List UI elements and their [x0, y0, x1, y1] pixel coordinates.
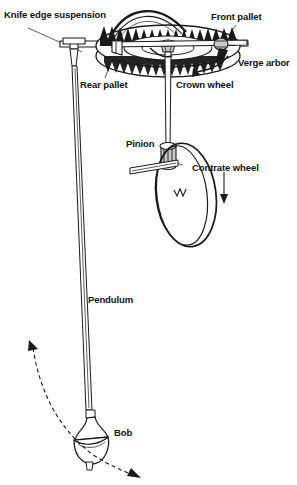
label-verge-arbor: Verge arbor	[238, 58, 290, 68]
label-bob: Bob	[114, 428, 132, 438]
bob-lower-body	[74, 437, 109, 464]
pendulum-rod-centerline	[75, 68, 89, 408]
label-contrate-wheel: Contrate wheel	[192, 163, 259, 173]
contrate-wheel-teeth-marker	[174, 189, 186, 196]
bob	[74, 410, 109, 470]
label-front-pallet: Front pallet	[211, 12, 262, 22]
crown-wheel-arbor	[165, 52, 171, 150]
label-knife-edge-suspension: Knife edge suspension	[4, 10, 106, 20]
label-pendulum: Pendulum	[88, 295, 133, 305]
contrate-wheel-assembly	[130, 140, 228, 251]
suspension-taper	[70, 49, 78, 66]
label-crown-wheel: Crown wheel	[176, 80, 234, 90]
diagram-canvas	[0, 0, 297, 485]
swing-arrow-right	[127, 468, 141, 478]
swing-arrow-left	[28, 340, 38, 351]
verge-escapement-diagram: Knife edge suspension Front pallet Verge…	[0, 0, 297, 485]
label-rear-pallet: Rear pallet	[80, 80, 127, 90]
label-pinion: Pinion	[126, 139, 154, 149]
bob-rating-nut	[86, 462, 93, 470]
rear-pallet	[112, 41, 122, 55]
contrate-rotation-arrowhead	[220, 194, 228, 204]
bob-upper-body	[75, 417, 108, 440]
verge-arbor-pivot	[214, 38, 228, 50]
pendulum	[72, 66, 92, 410]
